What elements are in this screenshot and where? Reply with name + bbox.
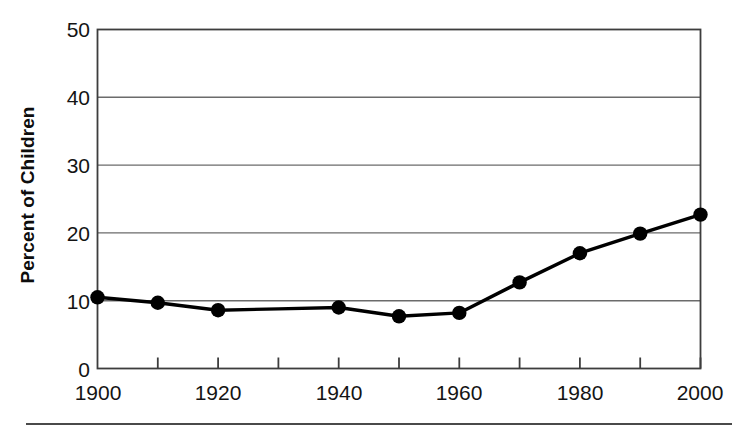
plot-area: [0, 0, 751, 438]
gridlines: [98, 97, 701, 300]
x-tick-marks: [158, 358, 701, 369]
chart-figure: Percent of Children 50 40 30 20 10 0 190…: [0, 0, 751, 438]
horizontal-rule: [26, 423, 732, 425]
